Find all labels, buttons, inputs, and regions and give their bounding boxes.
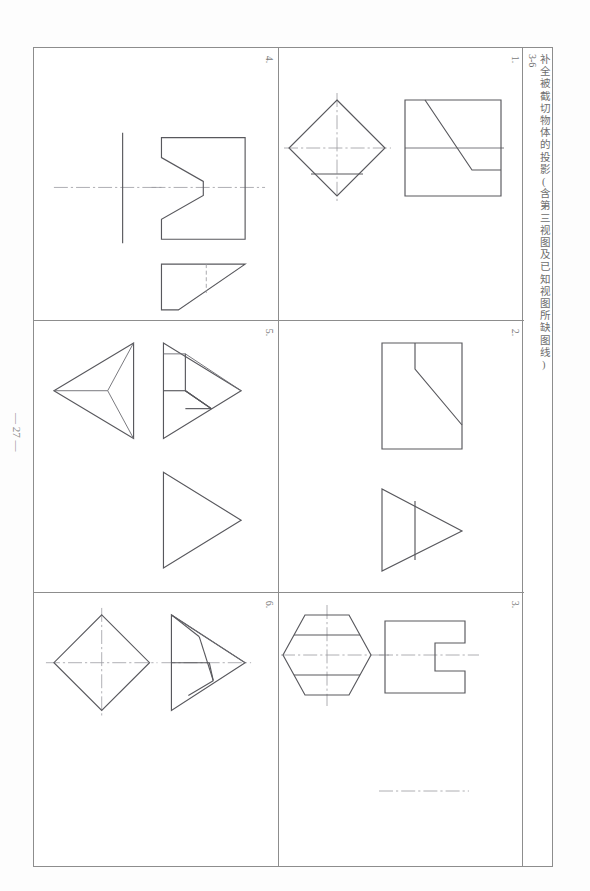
problem-cell-4[interactable]: 4. [34, 48, 279, 321]
worksheet-frame: 4. 1. [33, 47, 553, 867]
page-root: — 27 — 4. 1. [0, 0, 590, 891]
figure-problem-6 [34, 593, 278, 866]
sheet-title-code: 3-6 [527, 54, 538, 866]
problem-cell-3[interactable]: 3. [279, 593, 524, 866]
figure-problem-2 [279, 321, 524, 594]
problem-cell-6[interactable]: 6. [34, 593, 279, 866]
figure-problem-5 [34, 321, 278, 594]
problem-cell-1[interactable]: 1. [279, 48, 524, 321]
figure-problem-4 [34, 48, 278, 321]
problem-grid: 4. 1. [34, 48, 524, 866]
sheet-title-text: 补全被截切物体的投影(含第三视图及已知视图所缺图线) [538, 54, 549, 866]
page-number: — 27 — [11, 413, 23, 439]
figure-problem-3 [279, 593, 524, 866]
figure-problem-1 [279, 48, 524, 321]
problem-cell-2[interactable]: 2. [279, 321, 524, 594]
problem-cell-5[interactable]: 5. [34, 321, 279, 594]
sheet-title-strip: 3-6 补全被截切物体的投影(含第三视图及已知视图所缺图线) [522, 48, 552, 866]
